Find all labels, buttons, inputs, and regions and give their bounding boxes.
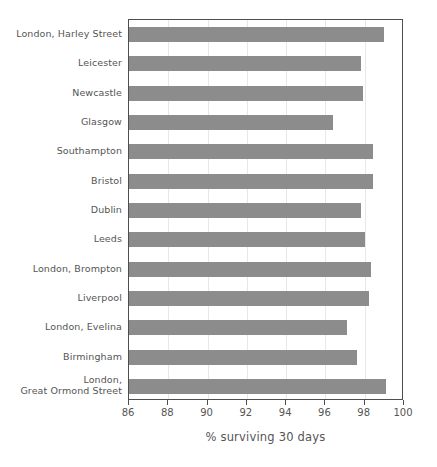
- x-tick-mark: [207, 400, 208, 405]
- category-label-line: London,: [2, 374, 122, 385]
- x-tick-mark: [324, 400, 325, 405]
- bar: [129, 86, 363, 101]
- category-label-line: Birmingham: [2, 351, 122, 362]
- x-tick-mark: [167, 400, 168, 405]
- x-axis-title: % surviving 30 days: [128, 430, 403, 444]
- x-axis: 86889092949698100: [128, 400, 403, 401]
- x-tick-label: 86: [113, 407, 143, 418]
- category-label-line: Bristol: [2, 175, 122, 186]
- category-label-line: Dublin: [2, 204, 122, 215]
- bar: [129, 115, 333, 130]
- category-label-line: Liverpool: [2, 292, 122, 303]
- category-label-line: Glasgow: [2, 116, 122, 127]
- category-label: Leicester: [2, 57, 122, 68]
- bar: [129, 350, 357, 365]
- category-label: Leeds: [2, 233, 122, 244]
- bar: [129, 56, 361, 71]
- bar: [129, 320, 347, 335]
- category-label: Southampton: [2, 145, 122, 156]
- x-tick-label: 98: [349, 407, 379, 418]
- bar: [129, 174, 373, 189]
- bar: [129, 232, 365, 247]
- category-label-line: Newcastle: [2, 87, 122, 98]
- category-label: London, Brompton: [2, 263, 122, 274]
- category-label: London,Great Ormond Street: [2, 374, 122, 396]
- x-tick-label: 96: [309, 407, 339, 418]
- category-label: Glasgow: [2, 116, 122, 127]
- category-label: Newcastle: [2, 87, 122, 98]
- bar: [129, 262, 371, 277]
- category-label-line: Leeds: [2, 233, 122, 244]
- plot-area: [128, 19, 403, 400]
- x-tick-label: 94: [270, 407, 300, 418]
- category-label: Birmingham: [2, 351, 122, 362]
- bar-chart-figure: London, Harley StreetLeicesterNewcastleG…: [0, 0, 437, 467]
- category-label-line: London, Brompton: [2, 263, 122, 274]
- category-label: London, Harley Street: [2, 28, 122, 39]
- category-label-line: Southampton: [2, 145, 122, 156]
- bar: [129, 203, 361, 218]
- bar: [129, 291, 369, 306]
- bar: [129, 379, 386, 394]
- x-tick-label: 92: [231, 407, 261, 418]
- category-label-line: London, Evelina: [2, 321, 122, 332]
- x-tick-mark: [128, 400, 129, 405]
- category-label-line: Leicester: [2, 57, 122, 68]
- x-tick-mark: [285, 400, 286, 405]
- x-tick-label: 100: [388, 407, 418, 418]
- category-label-line: London, Harley Street: [2, 28, 122, 39]
- x-tick-mark: [364, 400, 365, 405]
- bar: [129, 27, 384, 42]
- x-tick-mark: [403, 400, 404, 405]
- bar: [129, 144, 373, 159]
- category-label-line: Great Ormond Street: [2, 385, 122, 396]
- x-tick-label: 90: [192, 407, 222, 418]
- category-label: Liverpool: [2, 292, 122, 303]
- gridline: [365, 20, 366, 399]
- x-tick-mark: [246, 400, 247, 405]
- x-tick-label: 88: [152, 407, 182, 418]
- category-axis-labels: London, Harley StreetLeicesterNewcastleG…: [0, 19, 122, 400]
- category-label: Dublin: [2, 204, 122, 215]
- category-label: London, Evelina: [2, 321, 122, 332]
- category-label: Bristol: [2, 175, 122, 186]
